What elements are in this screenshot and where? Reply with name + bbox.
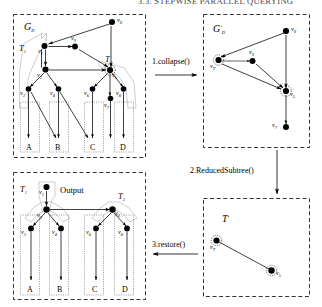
node-out-v3 (28, 226, 34, 232)
nodelabel-gd-v8: v8 (116, 89, 122, 98)
leafgroup-d-out (115, 215, 134, 295)
leaf-out-d: D (122, 285, 128, 294)
node-gd-v1 (42, 43, 48, 49)
leaf-out-c: C (92, 285, 97, 294)
panel-gd-label: GD (24, 21, 35, 33)
node-gdp-v0 (283, 28, 289, 34)
panel-output: T1 T2 Output (14, 173, 146, 300)
panel-tprime: T' vT v5 (204, 199, 310, 297)
panel-tprime-label: T' (222, 213, 230, 224)
node-gdp-vT (215, 57, 221, 63)
nodelabel-tp-v5: v5 (276, 269, 282, 278)
node-gdp-v7 (283, 124, 289, 130)
nodelabel-gd-v0: v0 (117, 16, 123, 25)
tree-label-t1-gd: T1 (19, 43, 26, 54)
edge-gd-v4-c (60, 92, 88, 138)
edge-gd-v0-v1 (49, 24, 112, 45)
operation-collapse: 1.collapse() (152, 57, 197, 75)
tree-label-t2-gd: T2 (105, 54, 113, 65)
nodelabel-gd-v7: v7 (104, 101, 110, 110)
edge-gd-v5-v6 (94, 73, 108, 87)
nodelabel-gdp-v9: v9 (249, 48, 255, 57)
nodelabel-gdp-vT: vT (210, 62, 216, 71)
leaf-gd-b: B (55, 143, 60, 152)
edge-gd-v3-b (31, 92, 56, 138)
leaf-out-a: A (27, 285, 33, 294)
leaf-gd-a: A (26, 143, 32, 152)
panel-tprime-border (204, 199, 310, 297)
leaf-out-b: B (57, 285, 62, 294)
nodelabel-gdp-v7: v7 (272, 121, 278, 130)
op-label-collapse: 1.collapse() (152, 57, 190, 66)
nodelabel-out-v5: v5 (115, 209, 121, 218)
operation-restore: 3.restore() (152, 240, 198, 254)
panel-gdprime-label: G'D (213, 23, 226, 35)
panel-gdprime-border (204, 15, 310, 148)
node-gd-v0 (109, 19, 115, 25)
nodelabel-out-v3: v3 (21, 228, 27, 237)
node-gd-v7 (108, 96, 114, 102)
nodelabel-gd-v3: v3 (20, 89, 26, 98)
leaf-gd-d: D (120, 143, 126, 152)
nodelabel-out-v1: v1 (39, 188, 44, 197)
panel-gdprime: G'D v0 v9 vT (204, 15, 310, 148)
nodelabel-gd-v4: v4 (50, 89, 56, 98)
nodelabel-gd-v2: v2 (37, 71, 43, 80)
node-gdp-v9 (250, 58, 256, 64)
leaf-gd-c: C (90, 143, 95, 152)
nodelabel-out-v4: v4 (52, 228, 58, 237)
node-gd-v2 (42, 66, 48, 72)
nodelabel-gdp-v5: v5 (290, 90, 296, 99)
node-tp-vT (213, 237, 219, 243)
node-out-v1 (43, 184, 49, 190)
node-out-v8 (124, 226, 130, 232)
op-label-reducedsubtree: 2.ReducedSubtree() (190, 166, 254, 175)
node-tp-v5 (268, 267, 274, 273)
op-label-restore: 3.restore() (152, 240, 185, 249)
output-label: Output (60, 185, 84, 195)
operation-reducedsubtree: 2.ReducedSubtree() (190, 150, 277, 194)
figure-root: 3.3. STEPWISE PARALLEL QUERYING GD (0, 0, 322, 307)
tree-label-t1-out: T1 (20, 184, 27, 195)
nodelabel-gd-v6: v6 (84, 89, 90, 98)
node-out-v6 (93, 226, 99, 232)
node-out-v2 (43, 206, 49, 212)
node-gdp-v5 (283, 88, 289, 94)
nodelabel-gdp-v0: v0 (291, 25, 297, 34)
edge-tp-vT-v5 (219, 242, 269, 269)
node-gd-v4 (56, 86, 62, 92)
edge-gdp-vT-v5 (222, 64, 281, 89)
panel-gd-border (14, 15, 146, 158)
panel-gd: GD T1 T2 (14, 15, 146, 158)
node-gd-v6 (90, 86, 96, 92)
node-out-v4 (58, 226, 64, 232)
diagram-canvas: GD T1 T2 (0, 0, 322, 307)
node-gd-v3 (26, 86, 32, 92)
edge-gd-v2-v4 (47, 73, 57, 87)
node-gd-v8 (121, 86, 127, 92)
tree-label-t2-out: T2 (118, 191, 126, 202)
edge-gd-v9-v5 (79, 50, 108, 68)
nodelabel-out-v8: v8 (118, 228, 124, 237)
node-gd-v9 (72, 44, 78, 50)
nodelabel-out-v6: v6 (86, 228, 92, 237)
